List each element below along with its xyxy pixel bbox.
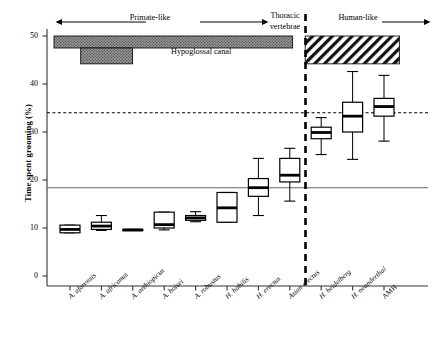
hypoglossal-canal-band-human (305, 36, 399, 64)
y-axis-tick-label: 40 (14, 79, 38, 88)
primate-like-label: Primate-like (100, 13, 200, 22)
human-like-label: Human-like (325, 13, 391, 22)
figure-container: Time spent grooming (%) 01020304050 A. a… (0, 0, 433, 355)
y-axis-tick-label: 30 (14, 127, 38, 136)
y-axis-tick-label: 50 (14, 31, 38, 40)
y-axis-tick-label: 10 (14, 223, 38, 232)
hypoglossal-canal-band-stub (81, 48, 133, 64)
hypoglossal-canal-label: Hypoglossal canal (171, 47, 231, 56)
thoracic-vertebrae-label-line2: vertebrae (259, 22, 311, 31)
thoracic-vertebrae-label-line1: Thoracic (259, 11, 311, 20)
y-axis-tick-label: 20 (14, 175, 38, 184)
box (280, 158, 300, 182)
y-axis-tick-label: 0 (14, 271, 38, 280)
